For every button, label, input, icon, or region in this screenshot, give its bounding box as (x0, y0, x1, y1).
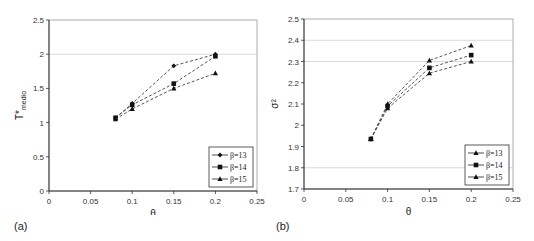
y-tick-label: 0 (40, 187, 45, 196)
y-tick-label: 1.8 (288, 164, 300, 173)
y-axis-label: σ² (269, 99, 280, 109)
y-axis-label: T*medio (14, 91, 27, 120)
chart-b-plot: 1.71.81.922.12.22.32.42.500.050.10.150.2… (264, 0, 534, 215)
legend-label: β=14 (230, 163, 247, 172)
series-β-15 (113, 71, 218, 122)
x-axis-label: θ (150, 208, 156, 215)
y-tick-label: 2 (40, 50, 45, 59)
y-tick-label: 2.5 (288, 15, 300, 24)
series-β-14 (369, 53, 474, 142)
y-tick-label: 1 (40, 119, 45, 128)
legend: β=13β=14β=15 (209, 147, 253, 187)
y-tick-label: 2.5 (33, 16, 45, 25)
y-tick-label: 1.5 (33, 84, 45, 93)
series-β-13 (113, 52, 218, 120)
x-tick-label: 0.2 (210, 197, 222, 206)
y-tick-label: 2.4 (288, 36, 300, 45)
series-β-14 (113, 54, 217, 120)
x-tick-label: 0.25 (505, 195, 521, 204)
legend-marker (218, 165, 223, 170)
x-tick-label: 0.05 (338, 195, 354, 204)
data-point-marker (427, 66, 432, 71)
legend-label: β=15 (230, 175, 247, 184)
y-tick-label: 0.5 (33, 153, 45, 162)
data-point-marker (213, 71, 218, 76)
legend: β=13β=14β=15 (465, 145, 509, 185)
y-tick-label: 1.9 (288, 143, 300, 152)
y-tick-label: 2.3 (288, 58, 300, 67)
data-point-marker (469, 53, 474, 58)
data-point-marker (469, 43, 474, 48)
x-tick-label: 0.25 (249, 197, 265, 206)
panel-label-b: (b) (276, 220, 289, 232)
panel-label-a: (a) (14, 220, 27, 232)
x-tick-label: 0.05 (83, 197, 99, 206)
legend-marker (474, 163, 479, 168)
x-tick-label: 0.2 (466, 195, 478, 204)
series-β-13 (368, 43, 474, 141)
y-tick-label: 2.2 (288, 79, 300, 88)
chart-a-plot: 00.511.522.500.050.10.150.20.25θT*medioβ… (0, 0, 267, 215)
data-point-marker (172, 81, 177, 86)
y-tick-label: 1.7 (288, 185, 300, 194)
x-tick-label: 0.15 (166, 197, 182, 206)
chart-panel-b: 1.71.81.922.12.22.32.42.500.050.10.150.2… (264, 0, 534, 241)
x-tick-label: 0.1 (127, 197, 139, 206)
legend-label: β=15 (486, 173, 503, 182)
legend-label: β=13 (486, 149, 503, 158)
legend-label: β=14 (486, 161, 503, 170)
y-tick-label: 2 (295, 121, 300, 130)
x-tick-label: 0 (302, 195, 307, 204)
series-β-15 (368, 59, 474, 141)
x-tick-label: 0.1 (382, 195, 394, 204)
x-tick-label: 0.15 (422, 195, 438, 204)
y-tick-label: 2.1 (288, 100, 300, 109)
chart-panel-a: 00.511.522.500.050.10.150.20.25θT*medioβ… (0, 0, 267, 241)
x-axis-label: θ (406, 206, 412, 215)
x-tick-label: 0 (47, 197, 52, 206)
legend-label: β=13 (230, 151, 247, 160)
data-point-marker (213, 54, 218, 59)
